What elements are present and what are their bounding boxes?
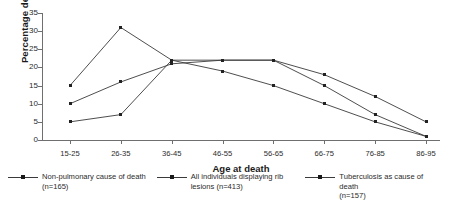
data-point (272, 84, 275, 87)
x-tick (324, 140, 325, 144)
y-tick-label: 30 (18, 27, 38, 35)
x-tick-label: 26-35 (93, 149, 149, 158)
data-point (425, 120, 428, 123)
x-tick-label: 46-55 (195, 149, 251, 158)
x-tick (70, 140, 71, 144)
x-tick-label: 86-95 (398, 149, 450, 158)
data-point (323, 102, 326, 105)
data-point (170, 62, 173, 65)
y-tick-label: 5 (18, 118, 38, 126)
data-point (119, 113, 122, 116)
data-point (221, 70, 224, 73)
legend-label: Non-pulmonary cause of death (n=165) (42, 172, 146, 191)
data-point (119, 80, 122, 83)
x-tick (223, 140, 224, 144)
x-tick (121, 140, 122, 144)
x-tick-label: 56-65 (245, 149, 301, 158)
legend-label-line2: (n=165) (42, 182, 68, 191)
data-point (170, 59, 173, 62)
data-point (374, 95, 377, 98)
plot-area: 05101520253035 15-2526-3536-4546-5556-65… (42, 13, 440, 140)
data-point (374, 120, 377, 123)
legend-label: Tuberculosis as cause of death (n=157) (339, 172, 444, 201)
data-point (323, 73, 326, 76)
line-chart: Percentage deaths 05101520253035 15-2526… (0, 0, 450, 205)
legend-label-line1: Tuberculosis as cause of death (339, 172, 423, 191)
y-tick-label: 15 (18, 82, 38, 90)
y-tick-label: 35 (18, 9, 38, 17)
data-point (69, 102, 72, 105)
data-point (272, 59, 275, 62)
legend-label: All individuals displaying rib lesions (… (191, 172, 283, 191)
x-tick (172, 140, 173, 144)
y-tick-label: 10 (18, 100, 38, 108)
legend-label-line2: lesions (n=413) (191, 182, 243, 191)
x-axis-line (42, 140, 440, 141)
legend-marker-icon (8, 173, 38, 182)
data-point (69, 84, 72, 87)
legend-item-non-pulmonary: Non-pulmonary cause of death (n=165) (8, 172, 147, 202)
legend-marker-icon (305, 173, 335, 182)
legend-item-rib-lesions: All individuals displaying rib lesions (… (157, 172, 296, 202)
x-tick (375, 140, 376, 144)
legend-marker-icon (157, 173, 187, 182)
chart-legend: Non-pulmonary cause of death (n=165) All… (8, 172, 444, 202)
series-markers (42, 13, 440, 140)
data-point (119, 26, 122, 29)
y-tick (38, 140, 43, 141)
x-tick-label: 36-45 (144, 149, 200, 158)
x-tick (273, 140, 274, 144)
x-tick-label: 66-75 (296, 149, 352, 158)
x-tick-label: 76-85 (347, 149, 403, 158)
legend-item-tuberculosis: Tuberculosis as cause of death (n=157) (305, 172, 444, 202)
x-tick-label: 15-25 (42, 149, 98, 158)
data-point (221, 59, 224, 62)
legend-label-line2: (n=157) (339, 191, 365, 200)
legend-label-line1: Non-pulmonary cause of death (42, 172, 146, 181)
data-point (425, 135, 428, 138)
legend-label-line1: All individuals displaying rib (191, 172, 283, 181)
y-tick-label: 0 (18, 136, 38, 144)
data-point (374, 113, 377, 116)
data-point (69, 120, 72, 123)
data-point (323, 84, 326, 87)
y-tick-label: 25 (18, 45, 38, 53)
x-tick (426, 140, 427, 144)
y-tick-label: 20 (18, 63, 38, 71)
